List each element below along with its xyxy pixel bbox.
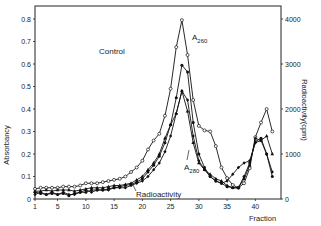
annotation-a280: A280	[184, 163, 200, 174]
annotation-a260: A260	[192, 33, 208, 44]
y-right-tick-label: 3000	[285, 61, 301, 68]
annotation-control: Control	[99, 47, 125, 56]
y-right-tick-label: 4000	[285, 16, 301, 23]
marker-open-circle	[73, 185, 76, 188]
x-tick-label: 15	[110, 203, 118, 210]
marker-filled-diamond	[45, 193, 48, 197]
marker-filled-triangle	[265, 134, 269, 137]
marker-open-circle	[265, 108, 268, 111]
y-right-tick-label: 0	[285, 196, 289, 203]
marker-open-circle	[39, 186, 42, 189]
marker-open-circle	[192, 99, 195, 102]
marker-open-circle	[124, 175, 127, 178]
y-left-tick-label: 0.7	[21, 38, 31, 45]
marker-open-circle	[67, 185, 70, 188]
marker-open-circle	[180, 19, 183, 22]
data-series	[33, 19, 274, 198]
y-left-tick-label: 0.1	[21, 173, 31, 180]
marker-open-circle	[197, 124, 200, 127]
marker-open-circle	[220, 166, 223, 169]
marker-open-circle	[243, 182, 246, 185]
a280-leader-line	[187, 150, 189, 160]
marker-filled-diamond	[56, 193, 59, 197]
marker-open-circle	[271, 130, 274, 133]
x-tick-label: 40	[251, 203, 259, 210]
plot-area-border	[35, 6, 281, 199]
x-tick-label: 20	[138, 203, 146, 210]
plot-frame	[35, 6, 281, 199]
y-left-tick-label: 0	[27, 196, 31, 203]
series-filled-circle	[34, 64, 274, 198]
marker-open-circle	[101, 181, 104, 184]
marker-filled-circle	[180, 64, 183, 67]
marker-filled-circle	[192, 121, 195, 124]
x-tick-label: 25	[167, 203, 175, 210]
marker-open-circle	[84, 182, 87, 185]
marker-filled-circle	[271, 175, 274, 178]
marker-open-circle	[113, 178, 116, 181]
marker-open-circle	[118, 177, 121, 180]
marker-open-circle	[79, 184, 82, 187]
marker-open-circle	[186, 54, 189, 57]
marker-open-circle	[163, 114, 166, 117]
marker-open-circle	[130, 171, 133, 174]
series-filled-diamond	[33, 89, 274, 196]
axis-ticks: 00.10.20.30.40.50.60.70.8010002000300040…	[21, 16, 300, 211]
marker-open-circle	[214, 145, 217, 148]
marker-open-circle	[209, 130, 212, 133]
marker-filled-diamond	[169, 134, 172, 138]
y-left-tick-label: 0.3	[21, 128, 31, 135]
x-tick-label: 30	[195, 203, 203, 210]
marker-open-circle	[158, 132, 161, 135]
marker-open-circle	[203, 129, 206, 132]
marker-open-circle	[141, 159, 144, 162]
y-left-tick-label: 0.4	[21, 106, 31, 113]
marker-filled-circle	[175, 96, 178, 99]
y-left-tick-label: 0.5	[21, 83, 31, 90]
y-axis-left-title: Absorbancy	[2, 125, 11, 165]
annotation-radioactivity: Radioactivity	[136, 190, 181, 199]
y-left-tick-label: 0.2	[21, 151, 31, 158]
marker-open-circle	[50, 186, 53, 189]
marker-open-circle	[96, 182, 99, 185]
marker-open-circle	[90, 182, 93, 185]
marker-filled-diamond	[265, 152, 268, 156]
marker-open-circle	[107, 180, 110, 183]
y-right-tick-label: 1000	[285, 151, 301, 158]
x-tick-label: 1	[33, 203, 37, 210]
marker-filled-triangle	[271, 152, 275, 155]
y-left-tick-label: 0.8	[21, 16, 31, 23]
marker-open-circle	[62, 185, 65, 188]
marker-open-circle	[260, 121, 263, 124]
x-tick-label: 35	[223, 203, 231, 210]
marker-open-circle	[147, 148, 150, 151]
x-axis-title: Fraction	[249, 214, 276, 223]
y-right-tick-label: 2000	[285, 106, 301, 113]
marker-open-circle	[135, 166, 138, 169]
fractionation-chart: 00.10.20.30.40.50.60.70.8010002000300040…	[0, 0, 321, 226]
y-left-tick-label: 0.6	[21, 61, 31, 68]
marker-open-circle	[175, 46, 178, 49]
x-tick-label: 5	[56, 203, 60, 210]
y-axis-right-title: Radioactivity(cpm)	[300, 79, 309, 141]
marker-open-circle	[169, 87, 172, 90]
marker-filled-circle	[186, 70, 189, 73]
x-tick-label: 10	[82, 203, 90, 210]
marker-open-circle	[152, 139, 155, 142]
